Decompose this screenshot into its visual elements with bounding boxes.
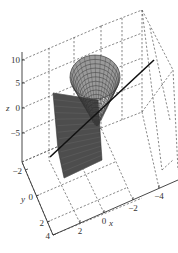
z-axis-label: z: [5, 103, 10, 113]
grid-line: [22, 26, 101, 60]
y-tick-mark: [53, 234, 56, 235]
grid-line: [101, 33, 142, 49]
z-tick-label: 0: [16, 103, 21, 113]
x-tick-label: −2: [128, 203, 138, 213]
x-tick-label: −4: [154, 191, 164, 201]
y-axis-label: y: [20, 194, 25, 204]
y-tick-label: −2: [12, 166, 22, 176]
y-tick-label: 4: [46, 231, 51, 241]
surfaces: [50, 55, 154, 178]
y-tick-label: 2: [40, 218, 45, 228]
z-tick-label: 10: [11, 55, 21, 65]
z-tick-label: −5: [10, 128, 20, 138]
plot-3d: 1050−5z−2024y20−2−4x: [0, 0, 178, 253]
grid-line: [101, 112, 142, 128]
grid-line: [142, 70, 173, 112]
x-axis-label: x: [108, 218, 113, 228]
x-tick-label: 0: [102, 216, 107, 226]
grid-line: [101, 10, 142, 26]
grid-line: [162, 160, 173, 170]
x-axis-line: [53, 180, 178, 235]
z-tick-label: 5: [16, 78, 21, 88]
grid-line: [173, 70, 178, 170]
y-tick-label: 0: [29, 192, 34, 202]
grid-line: [47, 188, 126, 222]
plane-surface: [53, 93, 102, 178]
grid-line: [142, 112, 159, 188]
y-axis-line: [22, 162, 53, 235]
grid-line: [150, 28, 170, 120]
x-tick-label: 2: [78, 226, 83, 236]
grid-line: [101, 128, 133, 200]
grid-line: [142, 10, 162, 170]
